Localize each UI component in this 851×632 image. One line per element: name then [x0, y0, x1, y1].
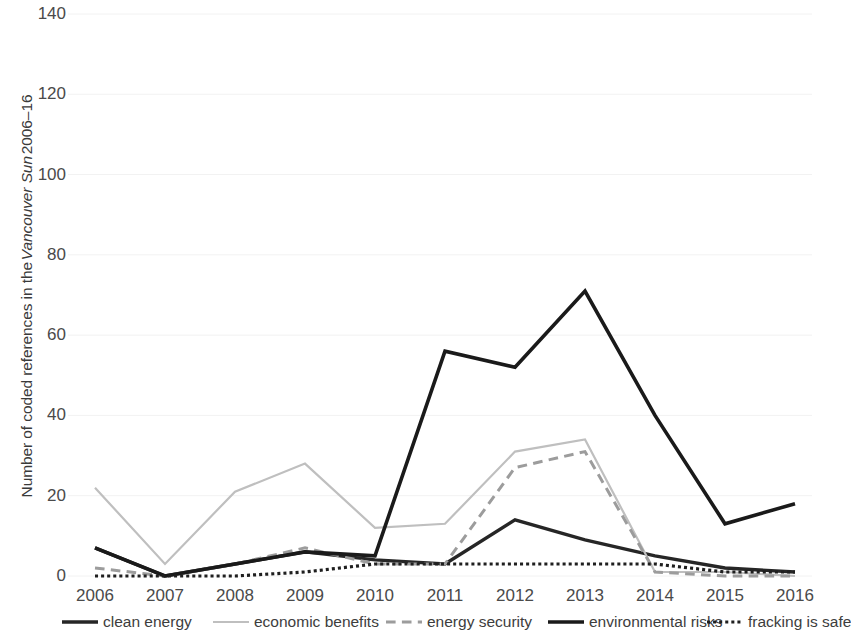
- x-tick-label: 2014: [623, 586, 687, 606]
- legend-line-swatch: [546, 615, 586, 629]
- legend-item-fracking-is-safe[interactable]: fracking is safe: [705, 611, 851, 632]
- x-tick-label: 2015: [693, 586, 757, 606]
- x-tick-label: 2007: [133, 586, 197, 606]
- legend-label: clean energy: [103, 614, 192, 630]
- chart-legend: clean energyeconomic benefitsenergy secu…: [0, 611, 815, 632]
- series-lines: [95, 291, 795, 576]
- x-tick-label: 2009: [273, 586, 337, 606]
- legend-label: energy security: [427, 614, 532, 630]
- x-tick-label: 2006: [63, 586, 127, 606]
- x-tick-label: 2013: [553, 586, 617, 606]
- legend-line-swatch: [60, 615, 100, 629]
- legend-item-energy-security[interactable]: energy security: [384, 611, 532, 632]
- legend-item-economic-benefits[interactable]: economic benefits: [211, 611, 379, 632]
- x-tick-label: 2011: [413, 586, 477, 606]
- legend-line-swatch: [705, 615, 745, 629]
- x-tick-label: 2016: [763, 586, 827, 606]
- legend-item-environmental-risks[interactable]: environmental risks: [546, 611, 723, 632]
- legend-line-swatch: [384, 615, 424, 629]
- series-line-environmental-risks: [95, 291, 795, 576]
- legend-line-swatch: [211, 615, 251, 629]
- x-tick-label: 2010: [343, 586, 407, 606]
- x-tick-label: 2008: [203, 586, 267, 606]
- x-axis-tick-labels: 2006200720082009201020112012201320142015…: [0, 586, 815, 610]
- x-tick-label: 2012: [483, 586, 547, 606]
- legend-label: economic benefits: [254, 614, 379, 630]
- series-line-economic-benefits: [95, 440, 795, 577]
- gridlines: [68, 14, 812, 576]
- legend-label: fracking is safe: [748, 614, 851, 630]
- legend-item-clean-energy[interactable]: clean energy: [60, 611, 192, 632]
- legend-label: environmental risks: [589, 614, 723, 630]
